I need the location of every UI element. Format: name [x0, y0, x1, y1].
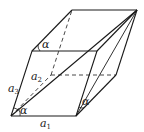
label-a2: a2 [31, 71, 42, 84]
hidden-edge-vertical [51, 10, 72, 75]
label-alpha-right: α [82, 96, 89, 107]
edge-top-left [32, 10, 72, 51]
angle-arc-bottom [14, 108, 18, 110]
space-diagonal [11, 10, 137, 116]
label-alpha-bottom: α [20, 105, 27, 116]
angle-arc-top [38, 45, 40, 51]
edge-right-back [116, 10, 137, 75]
label-a3: a3 [8, 83, 19, 96]
label-a1: a1 [40, 118, 51, 131]
label-alpha-top: α [42, 39, 49, 50]
